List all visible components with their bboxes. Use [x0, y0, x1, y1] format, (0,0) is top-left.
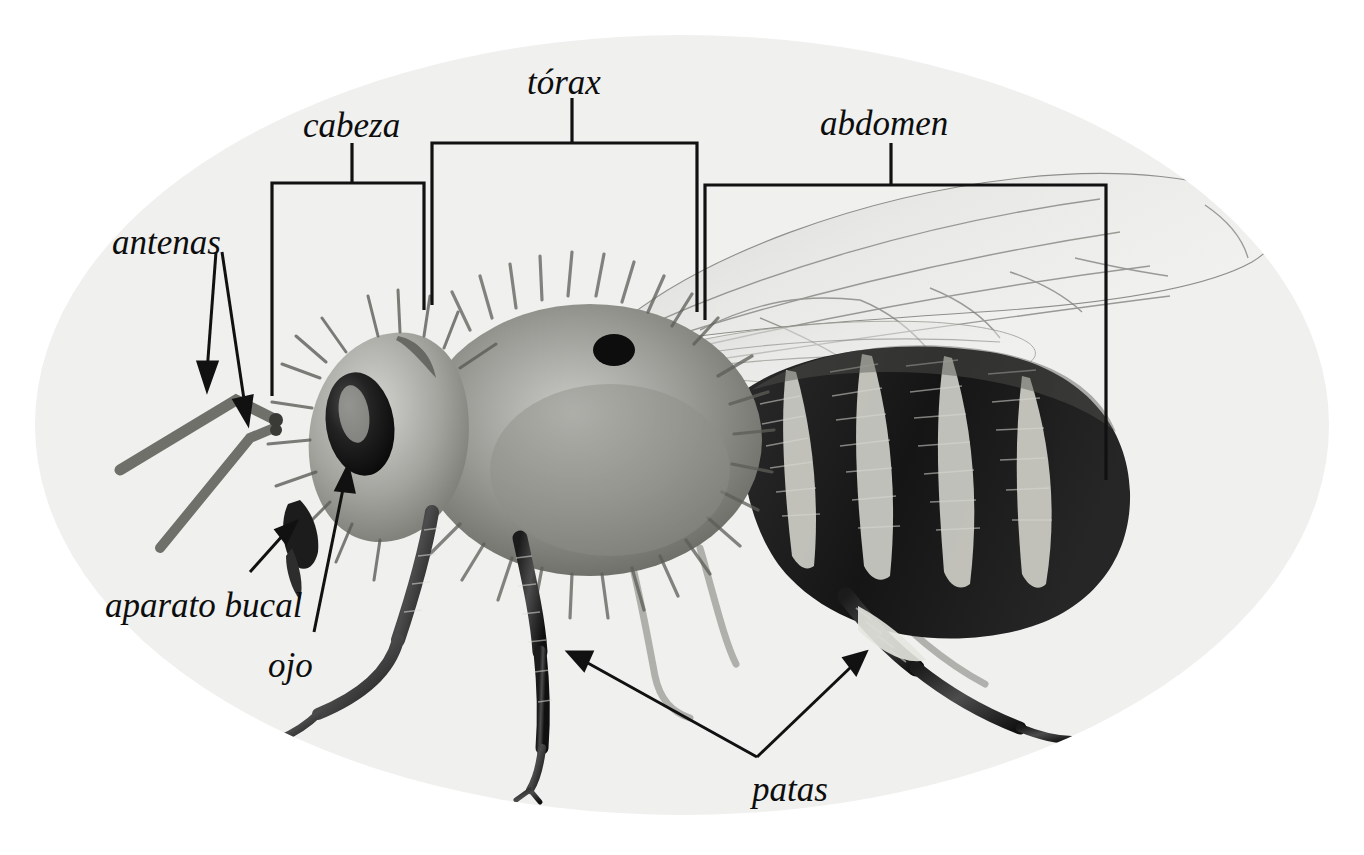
- label-ojo: ojo: [268, 648, 313, 683]
- label-antenas: antenas: [112, 225, 221, 260]
- label-torax: tórax: [527, 65, 601, 100]
- label-abdomen: abdomen: [820, 106, 948, 141]
- label-aparato-bucal: aparato bucal: [105, 588, 302, 623]
- bee-illustration: [0, 0, 1364, 855]
- label-cabeza: cabeza: [303, 108, 400, 143]
- label-patas: patas: [752, 772, 828, 807]
- bee-anatomy-figure: antenas cabeza tórax abdomen aparato buc…: [0, 0, 1364, 855]
